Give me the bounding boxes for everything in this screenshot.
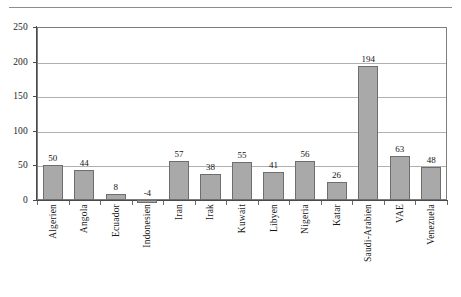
- category-label: Saudi-Arabien: [352, 204, 384, 294]
- bar-slot: 63: [384, 27, 416, 200]
- category-label-text: Kuwait: [237, 204, 247, 233]
- bar-value-label: 44: [80, 158, 89, 168]
- category-label-text: Indonesien: [142, 204, 152, 248]
- category-label: Angola: [69, 204, 101, 294]
- category-label: VAE: [384, 204, 416, 294]
- bar[interactable]: [263, 172, 283, 200]
- category-label-text: Saudi-Arabien: [363, 204, 373, 262]
- bar-slot: -4: [132, 27, 164, 200]
- x-axis-category-labels: AlgerienAngolaEcuadorIndonesienIranIrakK…: [37, 204, 447, 297]
- bar[interactable]: [295, 161, 315, 200]
- category-label-text: Libyen: [269, 204, 279, 232]
- bar-slot: 26: [321, 27, 353, 200]
- bar-value-label: 8: [114, 182, 119, 192]
- bar-value-label: 194: [361, 54, 375, 64]
- y-tick-label-150: 150: [13, 91, 28, 101]
- y-tick-label-0: 0: [23, 195, 28, 205]
- category-label-text: Irak: [205, 204, 215, 220]
- bar-value-label: 41: [269, 160, 278, 170]
- bar[interactable]: [137, 200, 157, 203]
- bar-value-label: 55: [237, 150, 246, 160]
- bar-chart-figure: 050100150200250 50448-457385541562619463…: [0, 0, 461, 297]
- category-label-text: Katar: [332, 204, 342, 226]
- y-tick-label-250: 250: [13, 22, 28, 32]
- bar-slot: 38: [195, 27, 227, 200]
- bar-slot: 44: [69, 27, 101, 200]
- bar-value-label: 50: [48, 153, 57, 163]
- bar-slot: 8: [100, 27, 132, 200]
- bar[interactable]: [390, 156, 410, 200]
- bar[interactable]: [74, 170, 94, 200]
- category-label: Iran: [163, 204, 195, 294]
- category-label: Nigeria: [289, 204, 321, 294]
- bar[interactable]: [358, 66, 378, 200]
- category-label: Katar: [321, 204, 353, 294]
- y-tick-label-50: 50: [18, 160, 28, 170]
- bar-value-label: -4: [144, 188, 152, 198]
- category-label-text: Ecuador: [111, 204, 121, 237]
- category-label-text: VAE: [395, 204, 405, 223]
- category-label: Ecuador: [100, 204, 132, 294]
- bar[interactable]: [106, 194, 126, 200]
- top-horizontal-rule: [9, 7, 452, 8]
- category-label: Irak: [195, 204, 227, 294]
- bar-value-label: 57: [174, 149, 183, 159]
- category-label: Kuwait: [226, 204, 258, 294]
- category-label: Libyen: [258, 204, 290, 294]
- bar-slot: 50: [37, 27, 69, 200]
- y-tick-label-200: 200: [13, 57, 28, 67]
- bar-slot: 48: [415, 27, 447, 200]
- y-tick-label-100: 100: [13, 126, 28, 136]
- bar[interactable]: [43, 165, 63, 200]
- bar[interactable]: [232, 162, 252, 200]
- bar-value-label: 38: [206, 162, 215, 172]
- bar-value-label: 63: [395, 144, 404, 154]
- bar[interactable]: [169, 161, 189, 200]
- bar-value-label: 56: [301, 149, 310, 159]
- category-label-text: Nigeria: [300, 204, 310, 234]
- x-axis-spine: [36, 200, 448, 201]
- category-label-text: Angola: [79, 204, 89, 233]
- y-axis-tick-labels: 050100150200250: [0, 0, 36, 297]
- category-label: Algerien: [37, 204, 69, 294]
- bar[interactable]: [421, 167, 441, 200]
- bar-value-label: 48: [427, 155, 436, 165]
- bar-slot: 56: [289, 27, 321, 200]
- bar-slot: 41: [258, 27, 290, 200]
- bar-slot: 194: [352, 27, 384, 200]
- bar-slot: 55: [226, 27, 258, 200]
- bar[interactable]: [327, 182, 347, 200]
- category-label: Venezuela: [415, 204, 447, 294]
- bars-group: 50448-45738554156261946348: [37, 27, 447, 200]
- category-label-text: Algerien: [48, 204, 58, 239]
- bar[interactable]: [200, 174, 220, 200]
- bar-value-label: 26: [332, 170, 341, 180]
- category-label: Indonesien: [132, 204, 164, 294]
- bar-slot: 57: [163, 27, 195, 200]
- category-label-text: Iran: [174, 204, 184, 220]
- x-tick: [447, 201, 448, 205]
- category-label-text: Venezuela: [426, 204, 436, 245]
